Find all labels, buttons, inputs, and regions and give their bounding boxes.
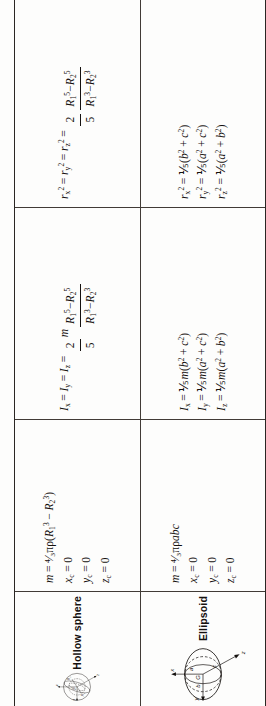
centroid-x-line: xc=0 — [184, 524, 203, 583]
centroid-label-G: G — [72, 687, 76, 690]
gyration-expressions-ellipsoid: rx2=⅕(b2+c2) ry2=⅕(a2+c2) rz2=⅕(a2+b2) — [175, 124, 231, 199]
gyration-cell-ellipsoid: rx2=⅕(b2+c2) ry2=⅕(a2+c2) rz2=⅕(a2+b2) — [141, 0, 266, 208]
table-row: x y z G a b c Ellipsoid — [140, 0, 266, 706]
axis-label-z: z — [240, 651, 246, 655]
gyration-x-line: rx2=⅕(b2+c2) — [175, 124, 194, 199]
centroid-label-G: G — [195, 675, 201, 680]
centroid-y-line: yc=0 — [203, 524, 222, 583]
dimension-label-c: c — [210, 665, 216, 668]
mass-line: m=⁴⁄₃πρabc — [166, 524, 185, 583]
mass-cell-ellipsoid: m=⁴⁄₃πρabc xc=0 yc=0 zc=0 — [141, 420, 266, 592]
inertia-expression-hollow-sphere: Ix=Iy=Iz=25mR15−R25R13−R23 — [55, 282, 99, 411]
body-label-ellipsoid: Ellipsoid — [197, 596, 209, 641]
dimension-label-R2: R2 — [68, 676, 72, 680]
body-label-hollow-sphere: Hollow sphere — [71, 596, 83, 670]
mass-line: m=⁴⁄₃πρ(R13−R23) — [40, 492, 59, 583]
table-sheet: x y z G R1 R2 Hollow sphere — [0, 0, 266, 706]
mass-cell-hollow-sphere: m=⁴⁄₃πρ(R13−R23) xc=0 yc=0 zc=0 — [15, 420, 140, 592]
gyration-z-line: rz2=⅕(a2+b2) — [212, 124, 231, 199]
dimension-label-b: b — [195, 684, 201, 688]
inertia-x-line: Ix=⅕m(b2+c2) — [175, 333, 194, 411]
inertia-z-line: Iz=⅕m(a2+b2) — [212, 333, 231, 411]
centroid-z-line: zc=0 — [96, 492, 115, 583]
rotated-page-stage: x y z G R1 R2 Hollow sphere — [0, 0, 266, 706]
hollow-sphere-diagram: x y z G R1 R2 — [21, 672, 133, 702]
figure-cell-hollow-sphere: x y z G R1 R2 Hollow sphere — [15, 592, 140, 706]
gyration-cell-hollow-sphere: rx2=ry2=rz2=25R15−R25R13−R23 — [15, 0, 140, 208]
mass-expressions-ellipsoid: m=⁴⁄₃πρabc xc=0 yc=0 zc=0 — [166, 524, 241, 583]
axis-label-x: x — [168, 668, 174, 673]
dimension-label-R1: R1 — [81, 693, 85, 696]
gyration-y-line: ry2=⅕(a2+c2) — [193, 124, 212, 199]
inertia-cell-hollow-sphere: Ix=Iy=Iz=25mR15−R25R13−R23 — [15, 208, 140, 420]
properties-table: x y z G R1 R2 Hollow sphere — [14, 0, 266, 706]
inertia-expressions-ellipsoid: Ix=⅕m(b2+c2) Iy=⅕m(a2+c2) Iz=⅕m(a2+b2) — [175, 333, 231, 411]
table-row: x y z G R1 R2 Hollow sphere — [15, 0, 140, 706]
inertia-line: Ix=Iy=Iz=25mR15−R25R13−R23 — [55, 282, 99, 411]
centroid-y-line: yc=0 — [77, 492, 96, 583]
inertia-cell-ellipsoid: Ix=⅕m(b2+c2) Iy=⅕m(a2+c2) Iz=⅕m(a2+b2) — [141, 208, 266, 420]
axis-label-y: y — [72, 699, 76, 702]
inertia-y-line: Iy=⅕m(a2+c2) — [193, 333, 212, 411]
axis-label-y: y — [193, 696, 199, 701]
centroid-z-line: zc=0 — [221, 524, 240, 583]
centroid-x-line: xc=0 — [59, 492, 78, 583]
axis-label-z: z — [96, 674, 100, 677]
mass-expressions-hollow-sphere: m=⁴⁄₃πρ(R13−R23) xc=0 yc=0 zc=0 — [40, 492, 115, 583]
gyration-line: rx2=ry2=rz2=25R15−R25R13−R23 — [55, 65, 99, 199]
ellipsoid-diagram: x y z G a b c — [147, 643, 259, 702]
figure-cell-ellipsoid: x y z G a b c Ellipsoid — [141, 592, 266, 706]
gyration-expression-hollow-sphere: rx2=ry2=rz2=25R15−R25R13−R23 — [55, 65, 99, 199]
